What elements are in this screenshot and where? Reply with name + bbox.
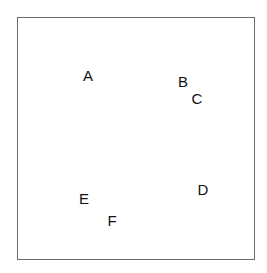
point-label-f: F — [107, 213, 116, 228]
point-label-b: B — [178, 74, 188, 89]
point-label-c: C — [192, 91, 203, 106]
point-label-a: A — [83, 68, 93, 83]
point-label-d: D — [198, 182, 209, 197]
diagram-frame — [17, 17, 255, 260]
point-label-e: E — [79, 191, 89, 206]
